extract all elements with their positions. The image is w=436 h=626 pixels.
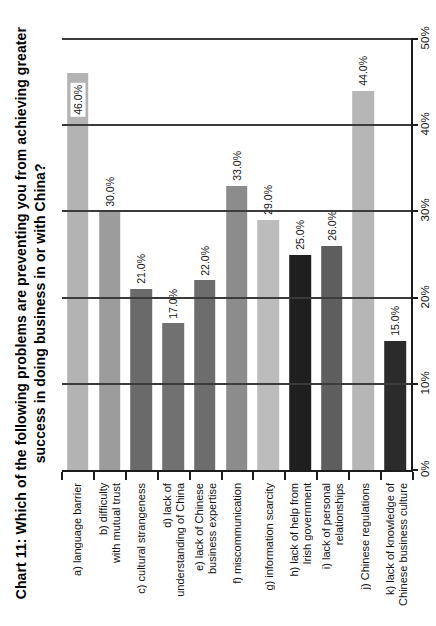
bar-slot-9: 26.0%	[316, 39, 348, 470]
chart-title-line-1: Chart 11: Which of the following problem…	[12, 27, 31, 599]
category-label: b) difficulty with mutual trust	[97, 483, 123, 563]
bar	[384, 341, 406, 470]
value-axis-tick	[411, 297, 418, 299]
value-axis-tick	[411, 38, 418, 40]
value-axis-tick-label: 30%	[419, 199, 432, 222]
bar-slot-5: 22.0%	[189, 39, 221, 470]
bar-value-label: 25.0%	[293, 218, 308, 252]
bar	[289, 255, 311, 471]
gridline-40%	[62, 124, 411, 126]
bar-value-label: 46.0%	[70, 83, 85, 117]
category-label: i) lack of personal relationships	[320, 483, 346, 569]
bar-value-label: 30.0%	[102, 175, 117, 209]
bars-container: 46.0%30.0%21.0%17.0%22.0%33.0%29.0%25.0%…	[62, 39, 411, 470]
bar-slot-11: 15.0%	[379, 39, 411, 470]
bar-slot-6: 33.0%	[221, 39, 253, 470]
bar-value-label: 26.0%	[324, 209, 339, 243]
bar	[67, 73, 89, 470]
bar	[353, 91, 375, 470]
category-cell-2: b) difficulty with mutual trust	[94, 483, 126, 626]
bar-slot-1: 46.0%	[62, 39, 94, 470]
bar-slot-7: 29.0%	[252, 39, 284, 470]
bar-slot-8: 25.0%	[284, 39, 316, 470]
bar	[99, 211, 121, 470]
bar-slot-4: 17.0%	[157, 39, 189, 470]
category-label: g) information scarcity	[263, 483, 276, 591]
category-cell-11: k) lack of knowledge of Chinese business…	[381, 483, 413, 626]
bar	[257, 220, 279, 470]
category-axis-tick	[93, 472, 95, 480]
category-axis-tick	[61, 472, 63, 480]
category-axis-tick	[252, 472, 254, 480]
plot-area: 46.0%30.0%21.0%17.0%22.0%33.0%29.0%25.0%…	[62, 39, 413, 472]
bar	[321, 246, 343, 470]
category-cell-8: h) lack of help from Irish government	[285, 483, 317, 626]
chart-page: Chart 11: Which of the following problem…	[0, 0, 436, 626]
category-label: k) lack of knowledge of Chinese business…	[384, 483, 410, 606]
category-label: j) Chinese regulations	[359, 483, 372, 589]
chart-title: Chart 11: Which of the following problem…	[12, 27, 50, 599]
gridline-50%	[62, 38, 411, 40]
category-axis-tick	[221, 472, 223, 480]
value-axis-tick	[411, 210, 418, 212]
category-cell-3: c) cultural strangeness	[126, 483, 158, 626]
category-axis-tick	[189, 472, 191, 480]
category-cell-10: j) Chinese regulations	[349, 483, 381, 626]
category-axis-tick	[348, 472, 350, 480]
value-axis-tick-label: 10%	[419, 371, 432, 394]
bar-value-label: 22.0%	[197, 244, 212, 278]
bar-slot-10: 44.0%	[348, 39, 380, 470]
category-label: f) miscommunication	[231, 483, 244, 584]
category-cell-6: f) miscommunication	[222, 483, 254, 626]
value-axis-tick	[411, 124, 418, 126]
value-axis-tick-label: 50%	[419, 26, 432, 49]
category-axis-tick	[284, 472, 286, 480]
category-axis-tick	[316, 472, 318, 480]
category-cell-7: g) information scarcity	[253, 483, 285, 626]
gridline-20%	[62, 297, 411, 299]
bar	[162, 323, 184, 470]
category-axis-tick	[412, 472, 414, 480]
value-axis-tick	[411, 469, 418, 471]
category-label: a) language barrier	[71, 483, 84, 576]
value-axis-tick	[411, 383, 418, 385]
bar	[131, 289, 153, 470]
bar-value-label: 44.0%	[356, 54, 371, 88]
chart-title-column: Chart 11: Which of the following problem…	[0, 0, 62, 626]
category-axis-tick	[125, 472, 127, 480]
value-axis-tick-label: 0%	[419, 461, 432, 478]
category-labels-row: a) language barrierb) difficulty with mu…	[62, 483, 413, 626]
category-cell-9: i) lack of personal relationships	[317, 483, 349, 626]
category-axis-tick	[380, 472, 382, 480]
bar	[194, 280, 216, 470]
category-label: c) cultural strangeness	[135, 483, 148, 594]
category-label: h) lack of help from Irish government	[288, 483, 314, 577]
value-axis-tick-label: 40%	[419, 113, 432, 136]
bar-value-label: 21.0%	[134, 252, 149, 286]
category-cell-4: d) lack of understanding of China	[158, 483, 190, 626]
value-axis-tick-label: 20%	[419, 285, 432, 308]
bar-slot-3: 21.0%	[125, 39, 157, 470]
category-axis-tick	[157, 472, 159, 480]
category-label: e) lack of Chinese business expertise	[193, 483, 219, 574]
gridline-10%	[62, 383, 411, 385]
category-axis-ticks	[62, 472, 413, 480]
category-cell-1: a) language barrier	[62, 483, 94, 626]
bar-value-label: 15.0%	[388, 304, 403, 338]
category-cell-5: e) lack of Chinese business expertise	[190, 483, 222, 626]
gridline-30%	[62, 210, 411, 212]
chart-title-line-2: success in doing business in or with Chi…	[31, 27, 50, 599]
bar-value-label: 17.0%	[166, 287, 181, 321]
bar-value-label: 33.0%	[229, 149, 244, 183]
bar	[226, 186, 248, 470]
category-label: d) lack of understanding of China	[161, 483, 187, 597]
bar-slot-2: 30.0%	[94, 39, 126, 470]
